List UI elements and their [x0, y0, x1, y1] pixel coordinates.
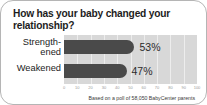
- x-tick-label: 90: [181, 85, 185, 90]
- bar-value-label: 53%: [139, 41, 160, 53]
- chart-card: How has your baby changed your relations…: [0, 0, 207, 105]
- category-label-line: ened: [3, 48, 61, 58]
- category-label-line: Weakened: [3, 64, 61, 74]
- gridline: [197, 35, 198, 84]
- x-tick-label: 100: [194, 85, 201, 90]
- bar: [64, 64, 127, 78]
- x-tick-label: 40: [115, 85, 119, 90]
- chart-title: How has your baby changed your relations…: [13, 8, 191, 32]
- x-tick-label: 80: [168, 85, 172, 90]
- x-tick-label: 30: [102, 85, 106, 90]
- x-tick-label: 0: [63, 85, 65, 90]
- bar-row: 53%: [64, 40, 197, 54]
- x-tick-label: 20: [88, 85, 92, 90]
- x-tick-label: 50: [128, 85, 132, 90]
- x-tick-label: 70: [155, 85, 159, 90]
- category-label: Weakened: [3, 64, 61, 74]
- category-label: Strength-ened: [3, 38, 61, 57]
- bar: [64, 40, 134, 54]
- chart-caption: Based on a poll of 58,050 BabyCenter par…: [89, 95, 195, 101]
- category-axis: Strength-enedWeakened: [1, 35, 61, 84]
- bar-row: 47%: [64, 64, 197, 78]
- x-tick-label: 60: [142, 85, 146, 90]
- plot-area: 53%47%: [64, 35, 197, 84]
- bar-value-label: 47%: [132, 65, 153, 77]
- x-tick-label: 10: [75, 85, 79, 90]
- x-axis: 0102030405060708090100: [64, 85, 197, 92]
